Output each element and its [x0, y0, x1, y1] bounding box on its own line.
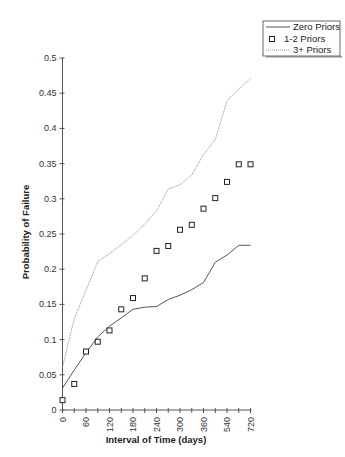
x-tick-label: 180 [128, 417, 138, 432]
data-point-marker [213, 196, 218, 201]
data-point-marker [142, 276, 147, 281]
y-axis-title: Probability of Failure [20, 185, 31, 280]
x-tick-label: 0 [58, 417, 68, 422]
x-axis-title: Interval of Time (days) [106, 434, 207, 445]
data-point-marker [154, 248, 159, 253]
x-tick-label: 300 [175, 417, 185, 432]
x-tick-label: 60 [81, 417, 91, 427]
data-point-marker [178, 227, 183, 232]
y-axis: 00.050.10.150.20.250.30.350.40.450.5 [39, 53, 65, 415]
x-tick-label: 360 [199, 417, 209, 432]
data-point-marker [201, 206, 206, 211]
data-point-marker [119, 307, 124, 312]
data-point-marker [248, 162, 253, 167]
legend: Zero Priors 1-2 Priors 3+ Priors [263, 21, 342, 58]
y-tick-label: 0.4 [44, 123, 57, 133]
data-point-marker [60, 398, 65, 403]
y-tick-label: 0.3 [44, 194, 57, 204]
legend-label-zero-priors: Zero Priors [293, 21, 340, 32]
y-tick-label: 0.1 [44, 335, 57, 345]
x-tick-label: 240 [152, 417, 162, 432]
line-chart: 00.050.10.150.20.250.30.350.40.450.5 060… [0, 0, 345, 457]
plot-area [60, 78, 253, 402]
data-point-marker [107, 328, 112, 333]
y-tick-label: 0.05 [39, 370, 57, 380]
legend-label-3-plus-priors: 3+ Priors [293, 44, 332, 55]
x-tick-label: 720 [246, 417, 256, 432]
data-point-marker [236, 162, 241, 167]
series-line-zero-priors [63, 245, 251, 388]
y-tick-label: 0.35 [39, 159, 57, 169]
legend-shadow [266, 56, 342, 58]
y-tick-label: 0 [51, 405, 56, 415]
data-point-marker [225, 179, 230, 184]
square-marker-icon [270, 37, 275, 42]
y-tick-label: 0.2 [44, 264, 57, 274]
y-tick-label: 0.15 [39, 299, 57, 309]
data-point-marker [72, 381, 77, 386]
data-point-marker [189, 222, 194, 227]
y-tick-label: 0.45 [39, 88, 57, 98]
data-point-marker [84, 349, 89, 354]
y-tick-label: 0.5 [44, 53, 57, 63]
x-tick-label: 540 [222, 417, 232, 432]
x-axis: 060120180240300360540720 [58, 408, 256, 432]
legend-label-1-2-priors: 1-2 Priors [284, 33, 325, 44]
series-line-3-plus-priors [63, 78, 251, 367]
data-point-marker [166, 243, 171, 248]
x-tick-label: 120 [105, 417, 115, 432]
y-tick-label: 0.25 [39, 229, 57, 239]
data-point-marker [95, 339, 100, 344]
data-point-marker [131, 296, 136, 301]
